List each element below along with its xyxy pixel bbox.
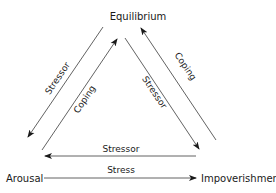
label-impov-to-arousal: Stressor — [103, 144, 140, 154]
arrow-arousal-to-eq — [42, 39, 117, 150]
node-impoverishment: Impoverishment — [201, 173, 276, 184]
label-eq-to-impov: Stressor — [140, 74, 169, 110]
label-arousal-to-impov: Stress — [107, 165, 135, 175]
node-equilibrium: Equilibrium — [110, 11, 167, 22]
node-arousal: Arousal — [6, 173, 43, 184]
stress-cycle-diagram: Equilibrium Arousal Impoverishment Stres… — [0, 0, 276, 193]
label-impov-to-eq: Coping — [173, 51, 199, 83]
label-arousal-to-eq: Coping — [72, 84, 98, 116]
arrow-eq-to-arousal — [28, 27, 103, 137]
